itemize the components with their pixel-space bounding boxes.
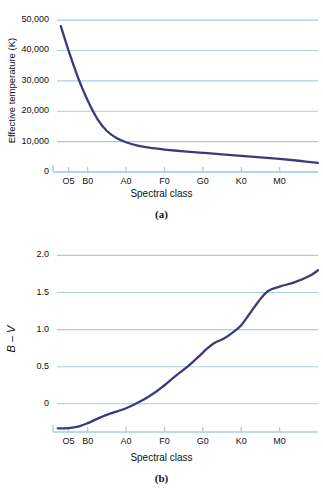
y-tick-label: 0 bbox=[0, 398, 49, 408]
y-tick-label: 30,000 bbox=[0, 75, 49, 85]
plot-area-panel-a bbox=[0, 0, 323, 190]
x-axis-label-panel-b: Spectral class bbox=[0, 452, 323, 463]
data-curve bbox=[61, 26, 318, 163]
y-tick-label: 1.0 bbox=[0, 324, 49, 334]
y-tick-label: 0.5 bbox=[0, 361, 49, 371]
y-tick-label: 40,000 bbox=[0, 44, 49, 54]
y-tick-label: 2.0 bbox=[0, 249, 49, 259]
data-curve bbox=[58, 270, 318, 428]
x-tick-label: A0 bbox=[108, 176, 144, 186]
x-tick-label: K0 bbox=[223, 176, 259, 186]
x-tick-label: G0 bbox=[185, 436, 221, 446]
panel-caption-a: (a) bbox=[0, 208, 323, 220]
panel-a: Effective temperature (K) Spectral class… bbox=[0, 0, 323, 230]
x-tick-label: B0 bbox=[70, 436, 106, 446]
panel-caption-b: (b) bbox=[0, 472, 323, 484]
figure-container: Effective temperature (K) Spectral class… bbox=[0, 0, 323, 494]
x-tick-label: F0 bbox=[146, 436, 182, 446]
x-tick-label: G0 bbox=[185, 176, 221, 186]
y-tick-label: 1.5 bbox=[0, 287, 49, 297]
x-tick-label: K0 bbox=[223, 436, 259, 446]
y-tick-label: 20,000 bbox=[0, 105, 49, 115]
panel-b: B – V Spectral class (b) 00.51.01.52.0O5… bbox=[0, 230, 323, 494]
x-tick-label: A0 bbox=[108, 436, 144, 446]
x-tick-label: M0 bbox=[262, 436, 298, 446]
y-tick-label: 0 bbox=[0, 166, 49, 176]
x-axis-label-panel-a: Spectral class bbox=[0, 188, 323, 199]
x-tick-label: B0 bbox=[70, 176, 106, 186]
y-tick-label: 50,000 bbox=[0, 14, 49, 24]
plot-area-panel-b bbox=[0, 230, 323, 454]
x-tick-label: F0 bbox=[146, 176, 182, 186]
y-tick-label: 10,000 bbox=[0, 136, 49, 146]
x-tick-label: M0 bbox=[262, 176, 298, 186]
